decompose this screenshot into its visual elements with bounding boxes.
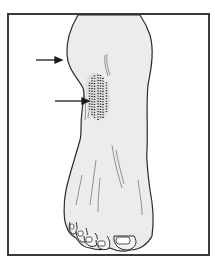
stipple-dot [91,91,93,92]
stipple-dot [91,111,93,112]
stipple-dot [102,83,104,84]
stipple-dot [97,88,99,89]
stipple-dot [97,80,99,81]
stipple-dot [106,101,108,102]
stipple-dot [94,107,96,108]
stipple-dot [102,106,104,107]
stipple-dot [106,108,108,109]
stipple-dot [97,75,99,76]
stipple-dot [100,109,102,110]
stipple-dot [100,91,102,92]
stipple-dot [91,106,93,107]
stipple-dot [100,80,102,81]
stipple-dot [100,83,102,84]
stipple-dot [94,114,96,115]
stipple-dot [89,106,91,107]
stipple-dot [94,99,96,100]
stipple-dot [106,103,108,104]
stipple-dot [94,112,96,113]
stipple-dot [94,104,96,105]
stipple-dot [89,85,91,86]
stipple-dot [97,119,99,120]
stipple-dot [100,117,102,118]
stipple-dot [97,111,99,112]
stipple-dot [89,90,91,91]
stipple-dot [89,109,91,110]
stipple-dot [94,86,96,87]
stipple-dot [97,106,99,107]
stipple-dot [102,93,104,94]
stipple-dot [106,90,108,91]
stipple-dot [91,88,93,89]
stipple-dot [94,109,96,110]
stipple-dot [100,85,102,86]
stipple-dot [94,81,96,82]
stipple-dot [91,98,93,99]
stipple-dot [94,78,96,79]
stipple-dot [91,93,93,94]
stipple-dot [106,88,108,89]
stipple-dot [91,78,93,79]
stipple-dot [89,88,91,89]
stipple-dot [97,108,99,109]
stipple-dot [91,114,93,115]
stipple-dot [97,95,99,96]
stipple-dot [94,117,96,118]
arrow-ankle [36,57,62,63]
stipple-dot [102,91,104,92]
arrow-lesion [55,98,89,104]
stipple-dot [100,98,102,99]
stipple-dot [102,78,104,79]
stipple-dot [97,103,99,104]
stipple-dot [89,83,91,84]
stipple-dot [91,101,93,102]
stipple-dot [106,82,108,83]
stipple-dot [94,88,96,89]
stipple-dot [100,78,102,79]
stipple-dot [97,114,99,115]
stipple-dot [97,77,99,78]
stipple-dot [91,80,93,81]
stipple-dot [102,117,104,118]
stipple-dot [89,96,91,97]
stipple-dot [102,112,104,113]
stipple-dot [97,90,99,91]
stipple-dot [94,91,96,92]
stipple-dot [94,83,96,84]
foot-outline [64,15,153,251]
stipple-dot [91,83,93,84]
stipple-dot [100,106,102,107]
stipple-dot [97,116,99,117]
stipple-dot [106,98,108,99]
stipple-dot [102,104,104,105]
stipple-dot [94,101,96,102]
stipple-dot [97,93,99,94]
stipple-dot [94,96,96,97]
stipple-dot [91,104,93,105]
stipple-dot [106,106,108,107]
stipple-dot [106,95,108,96]
stipple-dot [100,93,102,94]
stipple-dot [102,88,104,89]
stipple-dot [102,96,104,97]
stipple-dot [94,94,96,95]
stipple-dot [97,98,99,99]
stipple-dot [102,101,104,102]
stipple-dot [100,75,102,76]
stipple-dot [100,104,102,105]
stipple-dot [102,86,104,87]
stipple-dot [89,103,91,104]
stipple-dot [97,82,99,83]
stipple-dot [97,101,99,102]
foot-illustration [0,0,215,264]
stipple-dot [89,93,91,94]
stipple-dot [91,96,93,97]
stipple-dot [100,111,102,112]
stipple-dot [100,101,102,102]
stipple-dot [91,85,93,86]
stipple-dot [102,114,104,115]
stipple-dot [100,88,102,89]
stipple-dot [97,85,99,86]
stipple-dot [100,96,102,97]
stipple-dot [89,98,91,99]
